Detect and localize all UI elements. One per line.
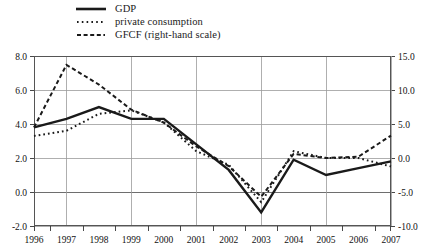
x-axis-tick-label: 2003 bbox=[252, 235, 271, 245]
legend-item-private-consumption: private consumption bbox=[76, 15, 336, 28]
legend-swatch-dashed-icon bbox=[76, 30, 106, 40]
chart-legend: GDP private consumption GFCF (right-hand… bbox=[76, 2, 336, 41]
y-axis-right-tick-label: 15.0 bbox=[398, 52, 415, 62]
x-axis-tick-label: 2005 bbox=[317, 235, 336, 245]
y-axis-left-tick-label: 6.0 bbox=[15, 86, 27, 96]
x-axis-tick-label: 1997 bbox=[57, 235, 76, 245]
y-axis-left-tick-label: 0.0 bbox=[15, 188, 27, 198]
x-axis-tick-label: 2004 bbox=[284, 235, 303, 245]
y-axis-right-tick-label: 5.0 bbox=[398, 120, 410, 130]
chart-container: GDP private consumption GFCF (right-hand… bbox=[0, 0, 430, 249]
x-axis-tick-label: 1998 bbox=[89, 235, 108, 245]
x-axis-tick-label: 1996 bbox=[25, 235, 44, 245]
y-axis-left-tick-label: -2.0 bbox=[12, 222, 27, 232]
y-axis-right-tick-label: -10.0 bbox=[398, 222, 418, 232]
x-axis-tick-label: 2001 bbox=[187, 235, 206, 245]
y-axis-left-tick-label: 8.0 bbox=[15, 52, 27, 62]
y-axis-right-tick-label: -5.0 bbox=[398, 188, 413, 198]
y-axis-left-tick-label: 2.0 bbox=[15, 154, 27, 164]
series-line-gfcf-right-hand-scale bbox=[34, 65, 391, 197]
x-axis-tick-label: 2000 bbox=[154, 235, 173, 245]
legend-label-private-consumption: private consumption bbox=[115, 16, 203, 27]
y-axis-left-tick-label: 4.0 bbox=[15, 120, 27, 130]
x-axis-tick-label: 1999 bbox=[122, 235, 141, 245]
plot-frame bbox=[35, 57, 391, 226]
legend-label-gfcf: GFCF (right-hand scale) bbox=[115, 29, 221, 40]
x-axis-tick-label: 2006 bbox=[349, 235, 368, 245]
x-axis-tick-label: 2002 bbox=[219, 235, 238, 245]
legend-label-gdp: GDP bbox=[115, 3, 136, 14]
legend-swatch-solid-icon bbox=[76, 4, 106, 14]
series-line-gdp bbox=[34, 107, 391, 212]
y-axis-right-tick-label: 0.0 bbox=[398, 154, 410, 164]
x-axis-tick-label: 2007 bbox=[382, 235, 401, 245]
legend-item-gdp: GDP bbox=[76, 2, 336, 15]
y-axis-right-tick-label: 10.0 bbox=[398, 86, 415, 96]
legend-swatch-dotted-icon bbox=[76, 17, 106, 27]
legend-item-gfcf: GFCF (right-hand scale) bbox=[76, 28, 336, 41]
